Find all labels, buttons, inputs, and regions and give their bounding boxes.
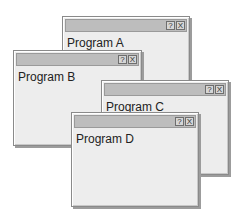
help-icon[interactable]: ?: [205, 85, 214, 94]
window-program-d[interactable]: ? X Program D: [71, 112, 199, 207]
close-icon[interactable]: X: [176, 21, 185, 30]
titlebar[interactable]: ? X: [74, 115, 196, 128]
help-icon[interactable]: ?: [175, 117, 184, 126]
titlebar[interactable]: ? X: [65, 19, 187, 32]
window-label: Program D: [76, 132, 196, 146]
titlebar[interactable]: ? X: [16, 53, 139, 66]
close-icon[interactable]: X: [185, 117, 194, 126]
close-icon[interactable]: X: [215, 85, 224, 94]
close-icon[interactable]: X: [128, 55, 137, 64]
window-label: Program A: [67, 36, 187, 50]
help-icon[interactable]: ?: [166, 21, 175, 30]
titlebar[interactable]: ? X: [104, 83, 226, 96]
help-icon[interactable]: ?: [118, 55, 127, 64]
